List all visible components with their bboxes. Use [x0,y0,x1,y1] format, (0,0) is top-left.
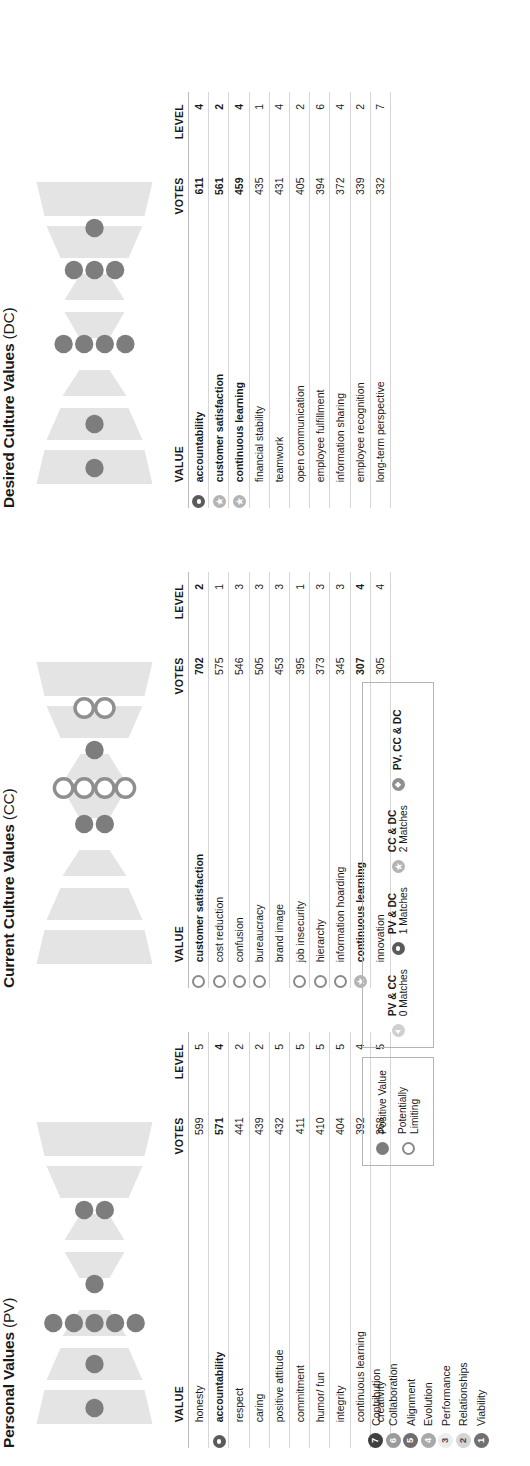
cell-level: 3 [330,572,350,641]
cell-value: teamwork [269,249,289,483]
table-row: employee fulfillment3946 [310,92,330,508]
cell-votes: 453 [269,641,289,728]
symbol-legend: Positive ValuePotentiallyLimiting PV & C… [362,673,434,1166]
cell-value: brand image [269,729,289,963]
cell-votes: 404 [330,1101,350,1188]
level-label: Relationships [457,1362,469,1426]
row-marker-cell-empty [330,482,350,508]
cell-level: 4 [330,92,350,161]
level-label: Alignment [405,1379,417,1426]
table-row: open communication4052 [289,92,309,508]
cell-level: 4 [189,92,209,161]
col-level-header: LEVEL [173,1032,189,1101]
row-marker-cell [249,962,269,988]
cell-level: 1 [209,572,229,641]
cell-level: 6 [310,92,330,161]
cell-votes: 441 [229,1101,249,1188]
match-legend-label: PV & CC0 Matches [387,969,410,1016]
potentially-limiting-icon [402,1142,415,1155]
table-row: customer satisfaction7022 [189,572,209,988]
potentially-limiting-icon [213,975,226,988]
hourglass-wedge [47,1166,143,1198]
table-row: customer satisfaction5612 [209,92,229,508]
hourglass-dot-positive [54,335,72,353]
row-marker-cell [310,962,330,988]
hourglass-wedge [65,1252,125,1278]
hourglass-wedge [65,792,125,818]
cell-level: 2 [289,92,309,161]
row-marker-cell-empty [269,482,289,508]
cell-level: 5 [310,1032,330,1101]
cell-level: 3 [310,572,330,641]
col-level-header: LEVEL [173,572,189,641]
hourglass-wedge [37,182,153,216]
col-value-header: VALUE [173,1189,189,1423]
cell-level: 4 [269,92,289,161]
panel-title-suffix: (PV) [0,1298,17,1332]
match-legend-label: PV, CC & DC [392,709,404,770]
cell-value: job insecurity [289,729,309,963]
row-marker-cell [209,482,229,508]
hourglass-wedge [63,850,127,876]
cell-value: employee fulfillment [310,249,330,483]
cell-value: positive attitude [269,1189,289,1423]
table-row: caring4392 [249,1032,269,1448]
hourglass-dot-limiting [96,699,114,717]
cell-value: commitment [289,1189,309,1423]
cell-votes: 611 [189,161,209,248]
hourglass-wedge [65,1214,125,1240]
col-icon-header [173,962,189,988]
level-label: Contribution [370,1369,382,1426]
cell-votes: 435 [249,161,269,248]
hourglass-dot-positive [75,1201,93,1219]
row-marker-cell-empty [289,482,309,508]
hourglass-dot-limiting [75,699,93,717]
potentially-limiting-icon [233,975,246,988]
panel-title-text: Personal Values [0,1332,17,1448]
cell-level: 1 [249,92,269,161]
row-marker-cell [209,962,229,988]
value-legend-label: Positive Value [377,1070,389,1134]
hourglass-dot-limiting [96,779,114,797]
hourglass-dot-positive [96,335,114,353]
cell-level: 3 [269,572,289,641]
cell-level: 4 [370,572,390,641]
cell-value: honesty [189,1189,209,1423]
match-legend-box: PV & CC0 MatchesPV & DC1 MatchesCC & DC2… [362,682,434,1048]
table-row: teamwork4314 [269,92,289,508]
hourglass-wedge [65,312,125,338]
row-marker-cell-empty [269,962,289,988]
hourglass-dot-positive [85,261,103,279]
table-row: accountability6114 [189,92,209,508]
m-ccdc-match-icon [213,495,226,508]
hourglass-dot-positive [85,219,103,237]
hourglass-svg [32,150,157,490]
hourglass-dot-positive [75,335,93,353]
level-badge: 3 [438,1433,453,1448]
cell-level: 1 [289,572,309,641]
table-header-row: VALUE VOTES LEVEL [173,572,189,988]
hourglass-dot-positive [85,459,103,477]
cell-votes: 702 [189,641,209,728]
row-marker-cell-empty [330,1422,350,1448]
table-row: information sharing3724 [330,92,350,508]
match-legend-row: CC & DC2 Matches [375,805,421,873]
row-marker-cell-empty [310,482,330,508]
level-legend-row: 3Performance [438,1018,453,1448]
row-marker-cell-empty [289,1422,309,1448]
match-legend-row: PV & CC0 Matches [375,969,421,1037]
panel-title-cc: Current Culture Values (CC) [0,558,18,988]
col-icon-header [173,1422,189,1448]
hourglass-dot-positive [85,1314,103,1332]
row-marker-cell [189,962,209,988]
cell-value: humor/ fun [310,1189,330,1423]
cultural-values-report-page: Personal Values (PV) VALUE VOTES LEVEL h… [0,0,530,1466]
cell-level: 5 [189,1032,209,1101]
values-table-body-cc: customer satisfaction7022cost reduction5… [189,572,391,988]
table-header-row: VALUE VOTES LEVEL [173,1032,189,1448]
table-row: financial stability4351 [249,92,269,508]
row-marker-cell-empty [229,1422,249,1448]
cell-value: accountability [189,249,209,483]
level-label: Performance [440,1365,452,1426]
match-legend-label: PV & DC1 Matches [387,887,410,934]
